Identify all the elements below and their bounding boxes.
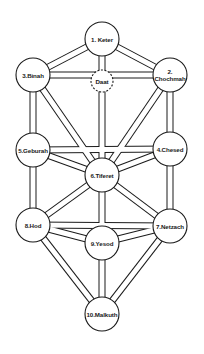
sephirah-label: Daat — [95, 78, 108, 85]
sephirah-label: 1. Keter — [91, 36, 114, 43]
sephirah-label: 9.Yesod — [91, 240, 114, 247]
sephirah-daat: Daat — [91, 70, 113, 92]
sephirah-label: 5.Geburah — [18, 147, 48, 154]
sephirah-hod: 8.Hod — [16, 208, 50, 242]
sephirah-label: 4.Chesed — [157, 146, 184, 153]
sephirah-binah: 3.Binah — [16, 58, 50, 92]
sephirah-label: Chochmah — [154, 75, 185, 82]
sephirah-malkuth: 10.Malkuth — [85, 297, 119, 331]
sephirah-label: 7.Netzach — [156, 223, 184, 230]
sephirah-netzach: 7.Netzach — [153, 209, 187, 243]
sephirah-label: 2. — [168, 68, 173, 75]
sephirah-label: 6.Tiferet — [90, 172, 113, 179]
sephirah-label: 8.Hod — [25, 222, 42, 229]
tree-of-life-diagram: 1. Keter2.Chochmah3.BinahDaat4.Chesed5.G… — [0, 0, 204, 354]
sephirah-geburah: 5.Geburah — [16, 133, 50, 167]
sephirah-chesed: 4.Chesed — [153, 132, 187, 166]
sephirah-yesod: 9.Yesod — [85, 226, 119, 260]
sephirah-label: 10.Malkuth — [87, 311, 118, 318]
sephirah-label: 3.Binah — [22, 72, 44, 79]
sephirah-tiferet: 6.Tiferet — [85, 158, 119, 192]
sephirah-chochmah: 2.Chochmah — [153, 58, 187, 92]
path-fill-geburah-chesed — [33, 149, 170, 150]
sephirah-keter: 1. Keter — [85, 22, 119, 56]
